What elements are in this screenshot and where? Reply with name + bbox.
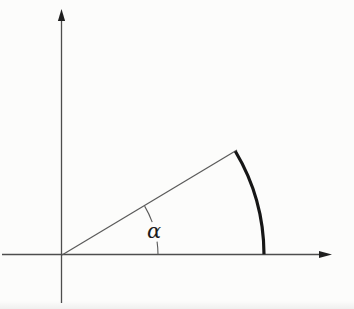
terminal-arc-thick bbox=[235, 151, 264, 254]
angle-diagram: α bbox=[0, 0, 354, 309]
angle-diagram-canvas: α bbox=[0, 0, 354, 309]
right-arrowhead-icon bbox=[319, 251, 332, 258]
angle-arc-lower-segment bbox=[157, 242, 158, 255]
angle-label-alpha: α bbox=[147, 219, 161, 243]
up-arrowhead-icon bbox=[58, 9, 65, 21]
